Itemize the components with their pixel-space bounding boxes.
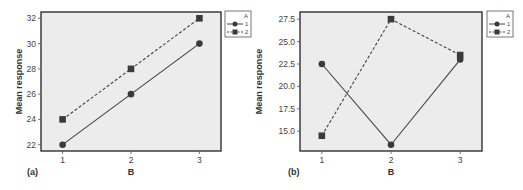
- panel-label: (a): [27, 167, 38, 177]
- y-tick-label: 26: [27, 89, 37, 99]
- y-tick-label: 15.0: [278, 126, 295, 136]
- x-tick-label: 3: [458, 155, 463, 165]
- y-tick-label: 22: [27, 140, 37, 150]
- plot-area: [300, 12, 482, 151]
- x-tick-label: 1: [60, 155, 65, 165]
- x-tick-label: 1: [319, 155, 324, 165]
- plot-area: [41, 12, 221, 151]
- data-point-square: [59, 116, 66, 123]
- panel-label: (b): [288, 167, 300, 177]
- legend-square-icon: [495, 30, 500, 35]
- data-point-square: [457, 52, 464, 59]
- data-point-circle: [128, 91, 135, 98]
- chart-panel-b: 15.017.520.022.525.027.5123BMean respons…: [254, 11, 513, 177]
- legend-square-icon: [233, 30, 238, 35]
- x-tick-label: 2: [389, 155, 394, 165]
- legend-title: A: [506, 13, 510, 19]
- y-tick-label: 25.0: [278, 37, 295, 47]
- y-tick-label: 22.5: [278, 59, 295, 69]
- legend-circle-icon: [495, 22, 500, 27]
- chart-panel-a: 222426283032123BMean response(a)A12: [14, 11, 251, 177]
- y-tick-label: 30: [27, 39, 37, 49]
- y-tick-label: 20.0: [278, 81, 295, 91]
- legend-title: A: [244, 13, 248, 19]
- data-point-circle: [388, 141, 395, 148]
- data-point-square: [196, 15, 203, 22]
- x-axis-label: B: [128, 167, 135, 177]
- interaction-plots: 222426283032123BMean response(a)A12 15.0…: [0, 0, 523, 190]
- x-axis-label: B: [388, 167, 395, 177]
- x-tick-label: 2: [129, 155, 134, 165]
- data-point-square: [128, 66, 135, 73]
- legend-circle-icon: [233, 22, 238, 27]
- data-point-square: [388, 16, 395, 23]
- y-axis-label: Mean response: [14, 49, 24, 115]
- y-tick-label: 28: [27, 64, 37, 74]
- y-tick-label: 32: [27, 13, 37, 23]
- x-tick-label: 3: [197, 155, 202, 165]
- y-tick-label: 27.5: [278, 14, 295, 24]
- y-tick-label: 17.5: [278, 104, 295, 114]
- y-tick-label: 24: [27, 114, 37, 124]
- data-point-square: [319, 132, 326, 139]
- data-point-circle: [59, 141, 66, 148]
- y-axis-label: Mean response: [254, 49, 264, 115]
- data-point-circle: [196, 40, 203, 47]
- data-point-circle: [319, 61, 326, 68]
